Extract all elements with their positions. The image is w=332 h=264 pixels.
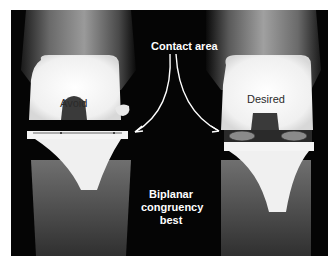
biplanar-congruency-note: Biplanar congruency best	[141, 188, 201, 227]
desired-label: Desired	[247, 93, 285, 105]
avoid-label: Avoid	[60, 97, 87, 109]
note-line-1: Biplanar	[141, 188, 201, 201]
note-line-2: congruency	[141, 201, 201, 214]
note-line-3: best	[141, 214, 201, 227]
contact-area-label: Contact area	[151, 40, 218, 53]
xray-image: Contact area Avoid Desired Biplanar cong…	[11, 10, 328, 256]
